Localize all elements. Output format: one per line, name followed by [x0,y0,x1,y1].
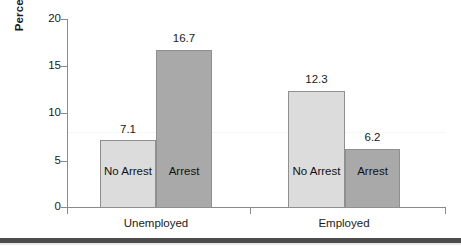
y-tick-label-10: 10 [5,107,61,119]
x-axis-group-label-unemployed: Unemployed [100,218,212,230]
bar-value-unemployed-no-arrest: 7.1 [100,124,156,136]
y-tick-label-5: 5 [5,155,61,167]
bar-value-employed-arrest: 6.2 [345,132,400,144]
x-tick-mark-end [445,208,446,214]
bar-inner-label-unemployed-no-arrest: No Arrest [100,166,156,178]
y-axis-line [67,19,68,208]
bar-employed-no-arrest[interactable] [288,91,345,208]
bar-unemployed-arrest[interactable] [156,50,212,208]
bottom-divider-rule-shadow [0,243,461,245]
bar-inner-label-employed-arrest: Arrest [345,166,400,178]
bar-value-employed-no-arrest: 12.3 [288,74,345,86]
y-tick-label-0: 0 [5,201,61,213]
y-tick-label-15: 15 [5,60,61,72]
y-tick-mark-15 [61,66,67,67]
bar-chart-figure: Percent With a Subsequent Assault 20 15 … [0,0,461,246]
y-tick-mark-5 [61,161,67,162]
x-axis-group-label-employed: Employed [288,218,400,230]
y-tick-label-20: 20 [5,13,61,25]
x-tick-mark-start [67,208,68,214]
y-tick-mark-20 [61,19,67,20]
y-tick-mark-10 [61,113,67,114]
bar-inner-label-unemployed-arrest: Arrest [156,166,212,178]
bar-value-unemployed-arrest: 16.7 [156,33,212,45]
bar-employed-arrest[interactable] [345,149,400,208]
x-tick-mark-middle [250,208,251,214]
bar-inner-label-employed-no-arrest: No Arrest [288,166,345,178]
